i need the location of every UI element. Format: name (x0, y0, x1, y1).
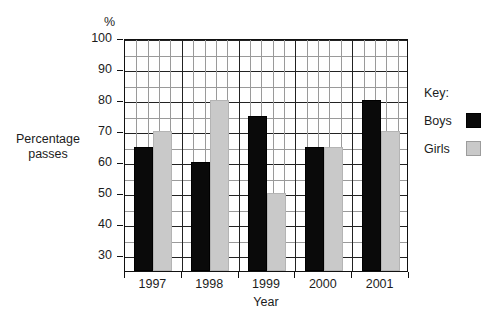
plot-area (124, 39, 408, 272)
x-tick-mark (294, 272, 295, 278)
y-tick-label-80: 80 (82, 94, 112, 107)
x-tick-label-1999: 1999 (236, 277, 296, 291)
legend: Key: BoysGirls (424, 86, 498, 169)
y-axis-caption-line-2: passes (2, 147, 94, 162)
y-tick-mark (117, 70, 123, 71)
bar-girls-1999 (267, 193, 286, 271)
x-tick-mark (238, 272, 239, 278)
legend-entry-girls: Girls (424, 141, 498, 156)
bar-boys-1998 (191, 162, 210, 271)
legend-entries: BoysGirls (424, 113, 498, 156)
x-tick-label-2001: 2001 (350, 277, 410, 291)
gridline-category-separator (352, 40, 353, 271)
y-tick-mark (117, 39, 123, 40)
bar-girls-1998 (210, 100, 229, 271)
y-tick-label-30: 30 (82, 249, 112, 262)
y-tick-label-50: 50 (82, 187, 112, 200)
legend-label-girls: Girls (424, 142, 466, 156)
y-tick-label-70: 70 (82, 125, 112, 138)
legend-entry-boys: Boys (424, 113, 498, 128)
y-tick-label-100: 100 (82, 32, 112, 45)
black-square-swatch (466, 113, 481, 128)
legend-title: Key: (424, 86, 498, 100)
bar-boys-1999 (248, 116, 267, 271)
y-tick-label-60: 60 (82, 156, 112, 169)
bar-boys-2001 (362, 100, 381, 271)
gridline-horizontal (125, 71, 407, 72)
x-tick-label-2000: 2000 (293, 277, 353, 291)
x-tick-mark (181, 272, 182, 278)
y-axis-caption: Percentage passes (2, 132, 94, 162)
y-tick-mark (117, 225, 123, 226)
gridline-category-separator (295, 40, 296, 271)
gridline-horizontal (125, 40, 407, 41)
legend-label-boys: Boys (424, 114, 466, 128)
bar-girls-1997 (153, 131, 172, 271)
gridline-category-separator (182, 40, 183, 271)
gray-square-swatch (466, 141, 481, 156)
gridline-category-separator (239, 40, 240, 271)
x-tick-mark (351, 272, 352, 278)
y-tick-mark (117, 101, 123, 102)
x-axis-end-mark (124, 272, 125, 278)
y-axis-caption-line-1: Percentage (2, 132, 94, 147)
x-axis-end-mark (408, 272, 409, 278)
y-axis-unit-label: % (104, 16, 115, 29)
bar-chart-figure: Percentage passes % 30405060708090100 19… (0, 0, 502, 321)
y-tick-label-90: 90 (82, 63, 112, 76)
y-tick-mark (117, 163, 123, 164)
y-tick-label-40: 40 (82, 218, 112, 231)
bar-boys-2000 (305, 147, 324, 271)
y-tick-mark (117, 256, 123, 257)
x-tick-label-1998: 1998 (179, 277, 239, 291)
gridline-horizontal (125, 87, 407, 88)
bar-boys-1997 (134, 147, 153, 271)
y-tick-mark (117, 132, 123, 133)
bar-girls-2001 (381, 131, 400, 271)
bar-girls-2000 (324, 147, 343, 271)
x-tick-label-1997: 1997 (122, 277, 182, 291)
gridline-horizontal (125, 56, 407, 57)
y-tick-mark (117, 194, 123, 195)
x-axis-caption: Year (124, 295, 408, 309)
